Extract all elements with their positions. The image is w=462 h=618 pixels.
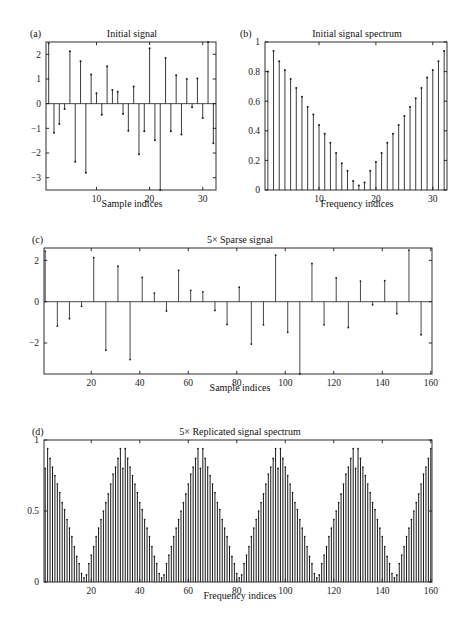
stem-marker [207, 466, 209, 468]
stem-marker [98, 527, 100, 529]
stem-marker [219, 509, 221, 511]
stem-marker [212, 142, 214, 144]
stem-marker [226, 324, 228, 326]
stem-marker [158, 573, 160, 575]
stem-marker [170, 130, 172, 132]
stem-marker [335, 152, 337, 154]
stem-marker [326, 546, 328, 548]
stem-marker [93, 546, 95, 548]
stem-marker [122, 113, 124, 115]
stem-marker [243, 563, 245, 565]
stem-marker [343, 483, 345, 485]
stem-marker [411, 519, 413, 521]
stem-marker [115, 466, 117, 468]
stem-marker [301, 527, 303, 529]
stem-marker [78, 563, 80, 565]
stem-marker [299, 519, 301, 521]
stem-marker [52, 466, 54, 468]
stem-marker [61, 502, 63, 504]
panel-c-plot: 20406080100120140160−202 [0, 230, 462, 405]
stem-marker [180, 134, 182, 136]
panel-d-xlabel: Frequency indices [100, 590, 380, 601]
stem-marker [53, 132, 55, 134]
stem-marker [267, 473, 269, 475]
stem-marker [352, 180, 354, 182]
stem-marker [345, 473, 347, 475]
stem-marker [149, 47, 151, 49]
stem-marker [192, 466, 194, 468]
panel-c-frame [44, 248, 432, 374]
stem-marker [129, 466, 131, 468]
panel-d-plot: 2040608010012014016000.51 [0, 408, 462, 613]
stem-marker [134, 483, 136, 485]
stem-marker [312, 114, 314, 116]
stem-marker [151, 546, 153, 548]
stem-marker [352, 448, 354, 450]
stem-marker [420, 483, 422, 485]
stem-marker [168, 554, 170, 556]
stem-marker [369, 170, 371, 172]
panel-a-ytick-label: −1 [31, 124, 41, 134]
stem-marker [255, 519, 257, 521]
stem-marker [360, 280, 362, 282]
stem-marker [270, 466, 272, 468]
stem-marker [369, 492, 371, 494]
stem-marker [321, 563, 323, 565]
panel-d-frame [44, 440, 432, 582]
stem-marker [289, 483, 291, 485]
stem-marker [133, 85, 135, 87]
stem-marker [226, 536, 228, 538]
stem-marker [81, 573, 83, 575]
stem-marker [234, 563, 236, 565]
stem-marker [175, 74, 177, 76]
stem-marker [156, 563, 158, 565]
stem-marker [389, 563, 391, 565]
stem-marker [166, 310, 168, 312]
stem-marker [74, 161, 76, 163]
stem-marker [413, 510, 415, 512]
stem-marker [426, 77, 428, 79]
stem-marker [217, 502, 219, 504]
stem-marker [364, 475, 366, 477]
stem-marker [415, 97, 417, 99]
stem-marker [141, 509, 143, 511]
stem-marker [277, 468, 279, 470]
stem-marker [137, 492, 139, 494]
stem-marker [120, 448, 122, 450]
stem-marker [304, 536, 306, 538]
stem-marker [159, 189, 161, 191]
stem-marker [212, 483, 214, 485]
stem-marker [105, 349, 107, 351]
stem-marker [323, 324, 325, 326]
stem-marker [263, 493, 265, 495]
stem-marker [301, 96, 303, 98]
stem-marker [408, 527, 410, 529]
stem-marker [163, 574, 165, 576]
stem-marker [221, 519, 223, 521]
stem-marker [258, 510, 260, 512]
panel-c-ytick-label: 2 [34, 256, 39, 266]
stem-marker [295, 87, 297, 89]
stem-marker [59, 492, 61, 494]
stem-marker [292, 492, 294, 494]
panel-c: (c) 5× Sparse signal 2040608010012014016… [0, 230, 462, 405]
stem-marker [165, 57, 167, 59]
stem-marker [250, 343, 252, 345]
stem-marker [331, 527, 333, 529]
stem-marker [263, 324, 265, 326]
stem-marker [280, 448, 282, 450]
stem-marker [69, 527, 71, 529]
stem-marker [161, 577, 163, 579]
stem-marker [105, 502, 107, 504]
stem-marker [260, 502, 262, 504]
stem-marker [127, 130, 129, 132]
figure-canvas: (a) Initial signal 102030−3−2−1012 Sampl… [0, 0, 462, 618]
stem-marker [49, 458, 51, 460]
stem-marker [95, 536, 97, 538]
stem-marker [93, 257, 95, 259]
stem-marker [180, 510, 182, 512]
stem-marker [122, 468, 124, 470]
stem-marker [66, 519, 68, 521]
panel-b-ytick-label: 0.2 [248, 156, 260, 166]
panel-c-ytick-label: 0 [34, 297, 39, 307]
